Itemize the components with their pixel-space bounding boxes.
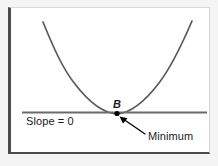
minimum-arrow-head xyxy=(120,117,128,124)
point-b-label: B xyxy=(113,99,121,110)
minimum-label: Minimum xyxy=(148,131,193,142)
slope-label: Slope = 0 xyxy=(26,116,74,127)
figure-container: B Slope = 0 Minimum xyxy=(0,0,218,166)
minimum-point-marker xyxy=(114,111,119,116)
minimum-arrow-shaft xyxy=(123,119,146,135)
